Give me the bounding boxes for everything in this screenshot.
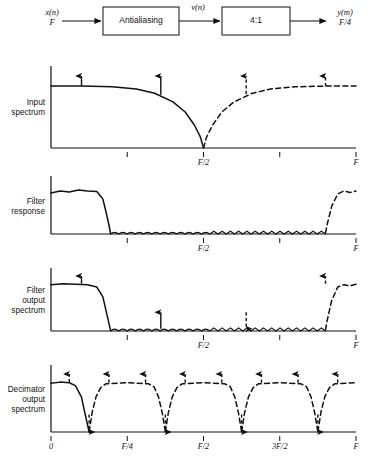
decimator-block-label: 4:1 (250, 15, 262, 25)
input-rate-label: F (49, 17, 54, 27)
x-tick-label: F/2 (198, 158, 209, 167)
panel-label: spectrum (11, 108, 45, 117)
panel-label: spectrum (11, 306, 45, 315)
output-rate-label: F/4 (339, 17, 351, 27)
panel-label: Filter (27, 286, 45, 295)
x-tick-label: 3F/2 (272, 442, 287, 451)
panel-label: Input (27, 98, 45, 107)
x-tick-label: 0 (49, 442, 53, 451)
x-tick-label: F (353, 158, 358, 167)
panel-label: Decimator (8, 385, 45, 394)
x-tick-label: F (353, 442, 358, 451)
panel-label: response (11, 207, 45, 216)
x-tick-label: F (353, 244, 358, 253)
panel-label: output (22, 395, 45, 404)
antialiasing-block-label: Antialiasing (119, 15, 162, 25)
x-tick-label: F (353, 341, 358, 350)
panel-label: spectrum (11, 405, 45, 414)
figure-text-layer: Antialiasing4:1x(n)Fv(n)y(m)F/4F/2FInput… (0, 0, 368, 469)
decimation-figure: Antialiasing4:1x(n)Fv(n)y(m)F/4F/2FInput… (0, 0, 368, 469)
x-tick-label: F/2 (198, 244, 209, 253)
panel-label: output (22, 296, 45, 305)
x-tick-label: F/2 (198, 442, 209, 451)
input-signal-label: x(n) (45, 7, 59, 17)
mid-signal-label: v(n) (191, 2, 205, 12)
output-signal-label: y(m) (337, 7, 353, 17)
panel-label: Filter (27, 197, 45, 206)
x-tick-label: F/4 (122, 442, 133, 451)
x-tick-label: F/2 (198, 341, 209, 350)
